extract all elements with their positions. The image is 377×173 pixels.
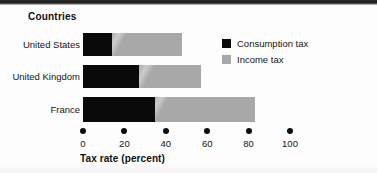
scan-streak-artifact (112, 33, 182, 56)
category-label-france: France (50, 104, 80, 115)
scan-edge-band (0, 0, 377, 5)
category-axis-title: Countries (28, 11, 76, 22)
bar-segment-consumption-tax (83, 65, 139, 88)
gray-square-icon (222, 55, 231, 64)
category-label-united-states: United States (23, 39, 80, 50)
x-tick-dot (121, 128, 127, 134)
x-tick-dot (287, 128, 293, 134)
tax-rate-bar-chart: Countries United States United Kingdom F… (0, 0, 377, 173)
bar-segment-income-tax (112, 33, 182, 56)
bar-segment-income-tax (139, 65, 201, 88)
bar-segment-income-tax (155, 97, 254, 122)
x-tick-label: 0 (80, 138, 85, 149)
x-tick-dot (204, 128, 210, 134)
scan-bottom-fade (0, 163, 377, 173)
x-tick-dot (80, 128, 86, 134)
black-square-icon (222, 39, 231, 48)
bar-segment-consumption-tax (83, 33, 112, 56)
x-tick-label: 60 (202, 138, 213, 149)
scan-streak-artifact (139, 65, 201, 88)
x-tick-label: 100 (282, 138, 298, 149)
legend-label: Income tax (237, 54, 283, 65)
bar-segment-consumption-tax (83, 97, 155, 122)
scan-streak-artifact (155, 97, 254, 122)
x-tick-label: 40 (161, 138, 172, 149)
legend: Consumption tax Income tax (222, 38, 308, 70)
legend-item-consumption-tax: Consumption tax (222, 38, 308, 49)
x-tick-label: 80 (243, 138, 254, 149)
x-tick-dot (163, 128, 169, 134)
legend-label: Consumption tax (237, 38, 308, 49)
legend-item-income-tax: Income tax (222, 54, 308, 65)
x-tick-dot (246, 128, 252, 134)
category-label-united-kingdom: United Kingdom (12, 71, 80, 82)
x-tick-label: 20 (119, 138, 130, 149)
